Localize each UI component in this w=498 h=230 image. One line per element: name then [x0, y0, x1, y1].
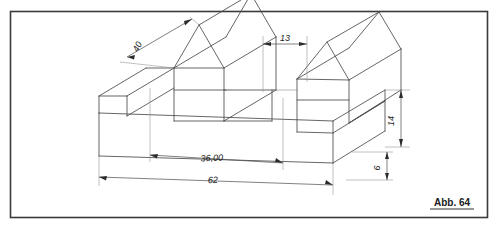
dim-62-arrow-right [325, 180, 333, 185]
right-roof-slope-far [297, 48, 349, 79]
right-roof-right-slope [349, 49, 401, 80]
base-top-front-edge [99, 113, 333, 121]
right-roof-ridge [327, 12, 379, 42]
dimension-lines [99, 17, 410, 195]
technical-drawing-canvas: 40 13 36,00 62 14 6 Abb. 64 [0, 0, 498, 230]
left-roof-slope-far [174, 37, 226, 68]
dim-6-arrow-bottom [385, 173, 389, 180]
dim-40-extension-near [120, 62, 174, 68]
dim-40-arrow-start [127, 55, 135, 60]
drawing-page: 40 13 36,00 62 14 6 Abb. 64 [0, 0, 498, 230]
dimension-6 [346, 152, 393, 180]
left-roof-slope-far-edge [226, 0, 251, 37]
dim-13-label: 13 [280, 33, 290, 43]
left-roof-gable-left [174, 25, 199, 68]
drawing-border [11, 12, 488, 218]
dim-62-label: 62 [208, 175, 219, 186]
dimension-13 [263, 36, 307, 92]
left-roof-right-slope [224, 37, 276, 68]
dimension-labels: 40 13 36,00 62 14 6 [131, 33, 396, 185]
base-right-bottom-edge [333, 131, 385, 163]
dim-36-label: 36,00 [200, 152, 223, 163]
dim-62-arrow-left [99, 176, 107, 181]
left-roof-gable-right [199, 25, 224, 68]
solid-geometry [99, 0, 401, 163]
right-roof-valley [297, 79, 349, 80]
left-step-receding-top [99, 68, 146, 96]
dim-40-extension-far [190, 17, 199, 25]
dim-40-label: 40 [131, 40, 144, 53]
dim-40-arrow-end [184, 19, 192, 26]
figure-caption: Abb. 64 [434, 197, 471, 208]
dim-14-arrow-bottom [399, 139, 403, 147]
dim-14-label: 14 [386, 116, 396, 126]
dim-6-arrow-top [385, 152, 389, 159]
right-roof-gable-left [297, 42, 327, 79]
figure-caption-group: Abb. 64 [430, 197, 474, 209]
right-roof-gable-right [327, 42, 349, 80]
left-roof-ridge [199, 0, 251, 25]
dim-13-arrow-right [299, 42, 307, 46]
left-prism-base-receding [224, 90, 276, 121]
right-step-bottom-front [297, 132, 333, 133]
dim-6-label: 6 [372, 165, 382, 170]
right-step-ledge [349, 101, 385, 123]
right-roof-right-eave [379, 12, 401, 49]
left-roof-right-eave [251, 0, 276, 37]
right-roof-slope-far-edge [349, 12, 379, 48]
